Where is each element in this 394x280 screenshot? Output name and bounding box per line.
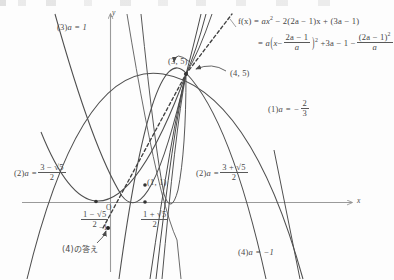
curve-label-4-body: a = −1 [249, 247, 274, 257]
fraction-2a-1-over-a: 2a − 1a [284, 33, 311, 52]
curve-label-2-left-body: a = [25, 168, 38, 178]
point-label-4-5: (4, 5) [230, 68, 250, 78]
arrow-formula-leader [230, 19, 236, 27]
curve-label-1-fraction: 23 [301, 99, 309, 117]
curve-label-3: (3)a = 1 [57, 22, 87, 32]
rest-line-1: − 2(2a − 1)x + (3a − 1) [275, 16, 359, 26]
axis-group [22, 14, 352, 272]
curve-label-1-prefix: (1) [268, 104, 279, 114]
figure-canvas: x y O f(x) = ax2 − 2(2a − 1)x + (3a − 1)… [0, 0, 394, 280]
equals-token-2: = [258, 38, 263, 48]
curve-label-2-right-fraction: 3 + √52 [220, 163, 247, 181]
tail-3a-minus-1: +3a − 1 − [321, 38, 356, 48]
arrow-answer-4-to-point [97, 231, 106, 243]
curve-label-2-right-den: 2 [220, 173, 247, 182]
x-axis-label: x [357, 196, 361, 205]
curve-label-2-right-prefix: (2) [196, 168, 207, 178]
curve-label-2-right: (2)a =3 + √52 [196, 163, 249, 181]
curve-steep-2 [156, 14, 206, 279]
point-marker-right-root [143, 200, 147, 204]
point-marker-left-root [94, 200, 98, 204]
curve-steep-3 [162, 14, 212, 279]
function-definition-line-2: = a(x−2a − 1a)2 +3a − 1 −(2a − 1)2a [258, 32, 394, 51]
curve-label-1-body: a = − [279, 104, 300, 114]
equals-token-1: = [254, 16, 259, 26]
tick-right-fraction: 1 + √52 [141, 210, 168, 228]
tick-label-minus-one: −1 [99, 223, 107, 232]
tick-right-den: 2 [141, 220, 168, 229]
curve-label-1: (1)a = −23 [268, 99, 310, 117]
arrow-4-5-to-point [196, 66, 226, 71]
fraction-denominator: a [284, 43, 311, 52]
minus-token-1: − [278, 38, 283, 48]
f-of-x-token: f(x) [238, 16, 252, 26]
y-axis-label: y [112, 8, 116, 17]
exponent-2-token-1: 2 [270, 15, 273, 21]
curve-label-2-left-prefix: (2) [14, 168, 25, 178]
point-marker-3-5 [184, 72, 188, 76]
curve-label-3-body: a = 1 [68, 22, 88, 32]
curve-label-3-prefix: (3) [57, 22, 68, 32]
tick-label-right-root: 1 + √52 [140, 210, 169, 228]
close-paren-icon: ) [312, 34, 315, 55]
point-label-1-1: (1, 1) [147, 177, 167, 187]
exponent-2-token-2: 2 [315, 37, 318, 43]
function-definition-line-1: f(x) = ax2 − 2(2a − 1)x + (3a − 1) [238, 14, 359, 28]
curve-label-2-right-body: a = [207, 168, 220, 178]
curve-label-2-left-den: 2 [38, 173, 65, 182]
curve-right-branch [274, 150, 300, 279]
fraction-denominator-2: a [357, 43, 393, 52]
curve-label-4: (4)a = −1 [238, 247, 274, 257]
a-token-2: a [265, 38, 270, 48]
open-paren-icon: ( [270, 34, 273, 55]
curve-label-2-left: (2)a =3 − √52 [14, 163, 67, 181]
annotation-answer-4: (4)の答え [62, 243, 99, 254]
point-label-3-5: (3, 5) [168, 56, 188, 66]
curve-label-1-den: 3 [301, 109, 309, 118]
curve-label-2-left-fraction: 3 − √52 [38, 163, 65, 181]
curve-label-4-prefix: (4) [238, 247, 249, 257]
fraction-2a-1-sq-over-a: (2a − 1)2a [357, 32, 393, 51]
